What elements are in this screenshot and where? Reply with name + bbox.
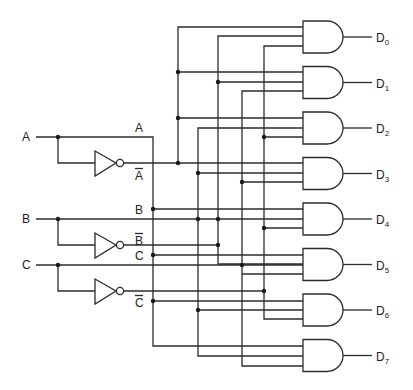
wire-a-input [36,137,303,346]
junction-dot [56,217,60,221]
input-label-c: C [22,258,31,272]
and-gate-d6: D6 [303,294,390,326]
and-gate-icon [303,21,343,53]
bus-label-b-bar: B [135,234,143,248]
bus-label-b: B [135,203,143,217]
junction-dot [56,263,60,267]
and-gate-d7: D7 [303,340,390,372]
junction-dot [176,70,180,74]
output-label-d3: D3 [376,168,390,184]
inverter-a-icon [95,151,116,176]
output-label-d0: D0 [376,31,390,47]
junction-dots [151,70,266,312]
bus-b [198,128,303,356]
bus-a-bar [178,27,303,163]
junction-dot [196,171,200,175]
and-gate-d3: D3 [303,158,390,190]
output-label-d7: D7 [376,350,390,366]
junction-dot [240,263,244,267]
and-gate-icon [303,294,343,326]
junction-dot [56,135,60,139]
and-gate-d1: D1 [303,67,390,99]
junction-dot [176,161,180,165]
output-label-d6: D6 [376,304,390,320]
junction-dot [262,289,266,293]
input-label-b: B [22,212,30,226]
bus-label-a-bar: A [135,169,143,183]
junction-dot [151,253,155,257]
inverter-b-icon [95,233,116,258]
bus-label-c: C [135,249,144,263]
junction-dot [196,308,200,312]
junction-dot [176,116,180,120]
inverter-bubble-icon [116,159,123,166]
and-gate-icon [303,203,343,235]
output-label-d5: D5 [376,259,390,275]
output-label-d2: D2 [376,122,390,138]
inverter-bubble-icon [116,287,123,294]
input-a-section: A A A [22,121,303,346]
and-gate-icon [303,249,343,281]
inverter-bubble-icon [116,241,123,248]
and-gate-d4: D4 [303,203,390,235]
and-gate-icon [303,158,343,190]
wire-b-to-inverter [58,219,95,245]
output-label-d1: D1 [376,77,390,93]
and-gate-icon [303,340,343,372]
junction-dot [262,226,266,230]
bus-label-a: A [135,121,143,135]
and-gate-d0: D0 [303,21,390,53]
junction-dot [151,207,155,211]
junction-dot [240,180,244,184]
decoder-circuit-diagram: A A A B B B C C C [0,0,413,390]
input-b-section: B B B [22,203,303,258]
junction-dot [216,217,220,221]
junction-dot [151,299,155,303]
and-gate-icon [303,67,343,99]
and-gate-d2: D2 [303,112,390,144]
vertical-buses [178,27,303,366]
junction-dot [216,243,220,247]
inverter-c-icon [95,279,116,304]
bus-b-bar [218,36,303,264]
junction-dot [262,135,266,139]
output-label-d4: D4 [376,213,390,229]
and-gate-d5: D5 [303,249,390,281]
bus-label-c-bar: C [135,296,144,310]
and-gates: D0 D1 D2 D3 D4 D5 D6 [303,21,390,372]
input-label-a: A [22,130,30,144]
wire-a-to-inverter [58,137,95,163]
and-gate-icon [303,112,343,144]
junction-dot [216,80,220,84]
wire-c-to-inverter [58,265,95,291]
gate-feeders [153,72,303,310]
junction-dot [196,217,200,221]
